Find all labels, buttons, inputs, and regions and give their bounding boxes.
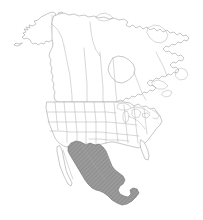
- distribution-map-figure: [0, 0, 203, 220]
- region-mexico-shaded: [60, 138, 150, 213]
- lake-michigan: [123, 111, 129, 123]
- region-canada: [49, 13, 189, 102]
- florida-peninsula: [140, 140, 149, 160]
- north-america-map: [0, 0, 203, 220]
- aleutian-tail: [14, 43, 22, 46]
- nova-scotia: [162, 90, 172, 97]
- usa-outline: [46, 102, 162, 148]
